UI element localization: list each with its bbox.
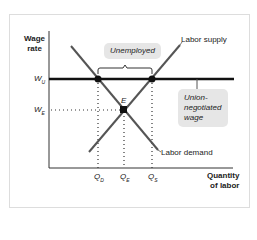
tick-qd: QD bbox=[94, 172, 104, 183]
union-line2: negotiated bbox=[184, 103, 222, 113]
labor-supply-curve bbox=[89, 45, 180, 152]
y-title-line2: rate bbox=[24, 44, 45, 54]
tick-wu: WU bbox=[34, 74, 45, 85]
equilibrium-label: E bbox=[121, 96, 126, 105]
x-title-line1: Quantity bbox=[207, 171, 239, 181]
y-axis-title: Wage rate bbox=[24, 34, 45, 54]
labor-supply-label: Labor supply bbox=[181, 35, 227, 44]
union-line3: wage bbox=[184, 113, 222, 123]
tick-qs: QS bbox=[148, 172, 158, 183]
qs-point bbox=[149, 76, 156, 83]
qd-point bbox=[95, 76, 102, 83]
x-title-line2: of labor bbox=[207, 181, 239, 191]
labor-demand-curve bbox=[71, 46, 158, 150]
unemployed-bracket bbox=[98, 65, 152, 74]
y-title-line1: Wage bbox=[24, 34, 45, 44]
tick-we: WE bbox=[34, 105, 45, 116]
x-axis-title: Quantity of labor bbox=[207, 171, 239, 191]
tick-qe: QE bbox=[120, 172, 130, 183]
labor-demand-label: Labor demand bbox=[161, 148, 213, 157]
union-wage-label: Union- negotiated wage bbox=[178, 89, 228, 127]
unemployed-label: Unemployed bbox=[104, 43, 161, 59]
union-line1: Union- bbox=[184, 93, 222, 103]
equilibrium-point bbox=[120, 106, 127, 113]
